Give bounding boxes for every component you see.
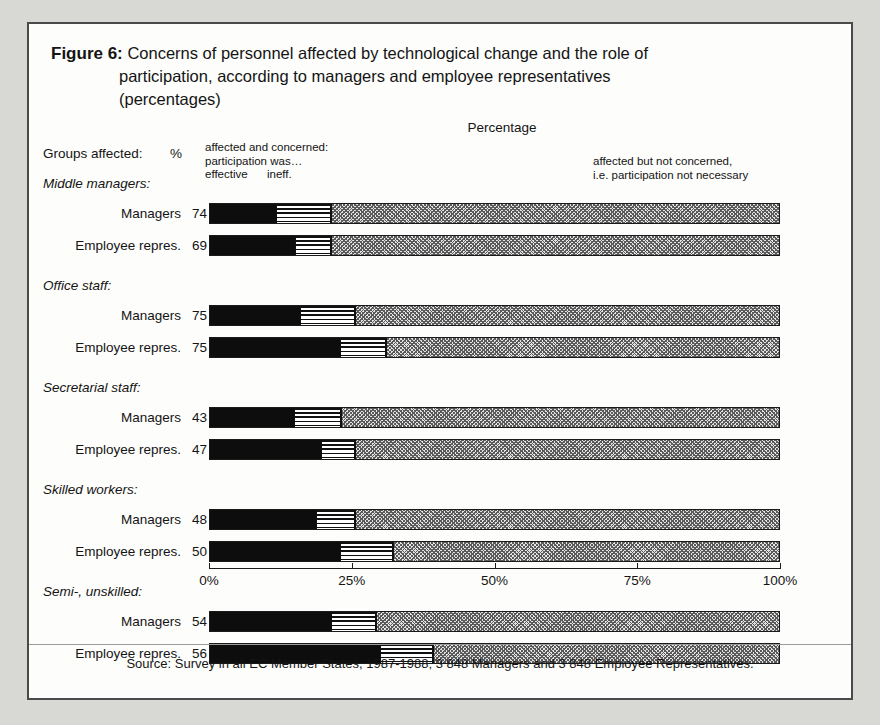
bar-row-percent-affected: 48 xyxy=(185,509,207,530)
figure-title-line-2: participation, according to managers and… xyxy=(51,65,831,88)
group-heading: Middle managers: xyxy=(43,176,150,191)
source-divider xyxy=(29,644,851,645)
bar-row-label: Managers xyxy=(29,407,181,428)
bar-segment-not-concerned xyxy=(355,306,779,325)
bar-row-percent-affected: 54 xyxy=(185,611,207,632)
figure-card: Figure 6: Concerns of personnel affected… xyxy=(27,22,853,700)
bar-row-label: Managers xyxy=(29,611,181,632)
bar-segment-ineffective xyxy=(340,542,393,561)
group-heading: Skilled workers: xyxy=(43,482,138,497)
stacked-bar xyxy=(209,337,780,358)
stacked-bar xyxy=(209,509,780,530)
stacked-bar xyxy=(209,235,780,256)
x-axis-tick xyxy=(637,563,638,569)
bar-segment-effective xyxy=(210,440,321,459)
x-axis: 0%25%50%75%100% xyxy=(209,568,781,602)
x-axis-tick-label: 25% xyxy=(338,573,365,588)
bar-row-percent-affected: 50 xyxy=(185,541,207,562)
figure-title-block: Figure 6: Concerns of personnel affected… xyxy=(51,42,831,111)
bar-segment-not-concerned xyxy=(355,440,779,459)
figure-title-line-1: Figure 6: Concerns of personnel affected… xyxy=(51,42,831,65)
bar-row: Managers75 xyxy=(29,305,855,326)
group-heading: Secretarial staff: xyxy=(43,380,141,395)
x-axis-tick-label: 50% xyxy=(481,573,508,588)
bar-row-percent-affected: 75 xyxy=(185,337,207,358)
bar-segment-effective xyxy=(210,236,295,255)
legend-left-line-2: participation was… xyxy=(205,155,328,169)
figure-title-line-3: (percentages) xyxy=(51,88,831,111)
percent-column-header: % xyxy=(170,146,182,161)
x-axis-tick xyxy=(780,563,781,569)
bar-segment-ineffective xyxy=(294,408,341,427)
bar-row-percent-affected: 74 xyxy=(185,203,207,224)
bar-row: Managers43 xyxy=(29,407,855,428)
bar-row: Employee repres.69 xyxy=(29,235,855,256)
bar-segment-not-concerned xyxy=(386,338,779,357)
bar-segment-effective xyxy=(210,204,276,223)
bar-row-label: Managers xyxy=(29,305,181,326)
figure-title-text-1: Concerns of personnel affected by techno… xyxy=(127,44,648,62)
stacked-bar xyxy=(209,305,780,326)
bar-segment-effective xyxy=(210,338,340,357)
bar-row-label: Employee repres. xyxy=(29,541,181,562)
legend-left-line-1: affected and concerned: xyxy=(205,141,328,155)
bar-row-label: Managers xyxy=(29,509,181,530)
bar-segment-not-concerned xyxy=(331,204,779,223)
stacked-bar xyxy=(209,203,780,224)
chart-area: Percentage Groups affected: % affected a… xyxy=(29,120,855,665)
bar-row: Managers74 xyxy=(29,203,855,224)
bar-row-label: Employee repres. xyxy=(29,439,181,460)
group-heading: Office staff: xyxy=(43,278,111,293)
bar-segment-ineffective xyxy=(276,204,331,223)
x-axis-tick-label: 75% xyxy=(624,573,651,588)
x-axis-tick xyxy=(352,563,353,569)
bar-row-percent-affected: 47 xyxy=(185,439,207,460)
bar-segment-not-concerned xyxy=(393,542,779,561)
bar-segment-not-concerned xyxy=(376,612,779,631)
source-note: Source: Survey in all EC Member States, … xyxy=(29,656,851,671)
legend-right-line-1: affected but not concerned, xyxy=(593,155,748,169)
bar-segment-ineffective xyxy=(321,440,355,459)
x-axis-tick-label: 0% xyxy=(199,573,219,588)
bar-segment-not-concerned xyxy=(355,510,779,529)
bar-segment-effective xyxy=(210,306,300,325)
bar-row-percent-affected: 69 xyxy=(185,235,207,256)
stacked-bar xyxy=(209,439,780,460)
bar-row: Employee repres.47 xyxy=(29,439,855,460)
bar-segment-effective xyxy=(210,612,331,631)
bar-row-label: Managers xyxy=(29,203,181,224)
bar-segment-ineffective xyxy=(331,612,376,631)
bar-segment-ineffective xyxy=(340,338,386,357)
bar-row: Managers54 xyxy=(29,611,855,632)
bar-row-label: Employee repres. xyxy=(29,337,181,358)
bar-row: Employee repres.50 xyxy=(29,541,855,562)
x-axis-title: Percentage xyxy=(29,120,855,135)
groups-affected-column-header: Groups affected: xyxy=(43,146,143,161)
stacked-bar xyxy=(209,611,780,632)
group-heading: Semi-, unskilled: xyxy=(43,584,142,599)
bar-segment-ineffective xyxy=(300,306,355,325)
figure-number-label: Figure 6: xyxy=(51,44,123,63)
bar-segment-ineffective xyxy=(295,236,331,255)
x-axis-tick xyxy=(495,563,496,569)
bar-segment-effective xyxy=(210,408,294,427)
x-axis-tick xyxy=(209,563,210,569)
bar-row-label: Employee repres. xyxy=(29,235,181,256)
bar-row: Employee repres.75 xyxy=(29,337,855,358)
bar-row-percent-affected: 43 xyxy=(185,407,207,428)
bar-segment-ineffective xyxy=(316,510,355,529)
bar-segment-effective xyxy=(210,510,316,529)
stacked-bar xyxy=(209,541,780,562)
bar-row: Managers48 xyxy=(29,509,855,530)
stacked-bar xyxy=(209,407,780,428)
bar-segment-not-concerned xyxy=(341,408,779,427)
x-axis-tick-label: 100% xyxy=(763,573,798,588)
bar-segment-not-concerned xyxy=(331,236,779,255)
bar-segment-effective xyxy=(210,542,340,561)
bar-row-percent-affected: 75 xyxy=(185,305,207,326)
